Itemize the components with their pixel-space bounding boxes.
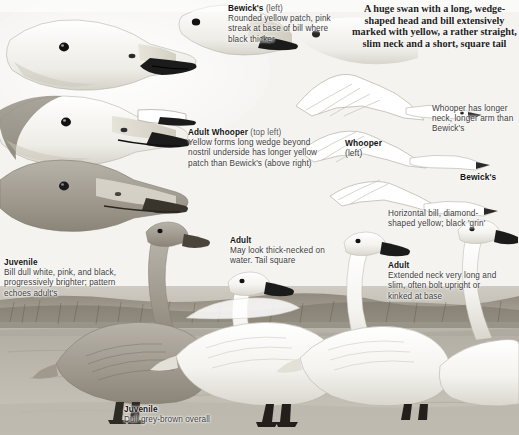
- caption-body: Whooper has longer neck, longer arm than…: [432, 104, 516, 135]
- caption-adult-whooper-head: Adult Whooper (top left) Yellow forms lo…: [188, 128, 328, 169]
- caption-heading: Juvenile: [4, 258, 38, 267]
- caption-body: Dull grey-brown overall: [124, 415, 254, 425]
- caption-adult-on-water: Adult May look thick-necked on water. Ta…: [230, 236, 342, 267]
- caption-adult-extended-neck: Adult Extended neck very long and slim, …: [388, 261, 498, 302]
- caption-juvenile-head: Juvenile Bill dull white, pink, and blac…: [4, 258, 122, 299]
- caption-body: Horizontal bill, diamond-shaped yellow; …: [388, 209, 494, 229]
- caption-subheading: (top left): [250, 128, 281, 137]
- caption-body: Yellow forms long wedge beyond nostril u…: [188, 138, 328, 169]
- caption-heading: Adult: [230, 236, 251, 245]
- caption-body: Bill dull white, pink, and black, progre…: [4, 268, 122, 299]
- label-subheading: (left): [345, 148, 405, 158]
- caption-heading: Juvenile: [124, 405, 158, 414]
- label-whooper-flight: Whooper (left): [345, 138, 405, 158]
- label-bewicks-flight: Bewick's: [460, 172, 516, 182]
- caption-body: May look thick-necked on water. Tail squ…: [230, 246, 342, 266]
- caption-subheading: (left): [266, 4, 283, 13]
- caption-heading: Bewick's: [228, 4, 264, 13]
- caption-body: Rounded yellow patch, pink streak at bas…: [228, 14, 348, 45]
- label-heading: Bewick's: [460, 172, 496, 182]
- caption-heading: Adult Whooper: [188, 128, 248, 137]
- label-heading: Whooper: [345, 138, 382, 148]
- caption-juvenile-bottom: Juvenile Dull grey-brown overall: [124, 405, 254, 425]
- caption-whooper-neck-comparison: Whooper has longer neck, longer arm than…: [432, 104, 516, 135]
- swan-identification-plate: Bewick's (left) Rounded yellow patch, pi…: [0, 0, 519, 435]
- caption-body: Extended neck very long and slim, often …: [388, 271, 498, 302]
- caption-heading: Adult: [388, 261, 409, 270]
- caption-bewicks-top: Bewick's (left) Rounded yellow patch, pi…: [228, 4, 348, 45]
- caption-horizontal-bill: Horizontal bill, diamond-shaped yellow; …: [388, 209, 494, 229]
- caption-intro-description: A huge swan with a long, wedge-shaped he…: [352, 3, 517, 49]
